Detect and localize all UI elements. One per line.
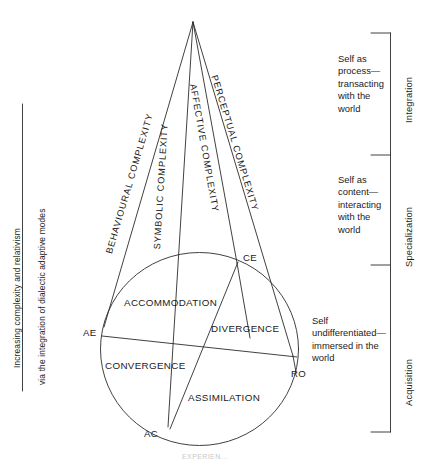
node-label-ro: RO bbox=[291, 368, 306, 379]
axis-ce-ac bbox=[170, 262, 238, 429]
ray-behavioural bbox=[104, 22, 193, 327]
quadrant-label-convergence: CONVERGENCE bbox=[105, 360, 186, 372]
stage-phase-specialization: Specialization bbox=[404, 207, 415, 267]
quadrant-label-assimilation: ASSIMILATION bbox=[188, 392, 260, 404]
node-label-ac: AC bbox=[144, 428, 158, 439]
quadrant-label-divergence: DIVERGENCE bbox=[211, 323, 279, 335]
figure-canvas: Increasing complexity and relativism via… bbox=[0, 0, 426, 460]
stage-description-integration: Self as process— transacting with the wo… bbox=[338, 53, 384, 115]
learning-cycle-circle bbox=[101, 253, 299, 446]
stage-phase-acquisition: Acquisition bbox=[404, 359, 415, 406]
node-label-ae: AE bbox=[83, 327, 96, 338]
stage-phase-integration: Integration bbox=[404, 77, 415, 123]
quadrant-label-accommodation: ACCOMMODATION bbox=[124, 297, 217, 309]
axis-ae-ro bbox=[102, 336, 297, 357]
node-label-ce: CE bbox=[243, 252, 257, 263]
stage-description-acquisition: Self undifferentiated— immersed in the w… bbox=[312, 315, 386, 365]
left-axis-label-line1: Increasing complexity and relativism bbox=[13, 228, 23, 368]
stage-description-specialization: Self as content— interacting with the wo… bbox=[338, 174, 381, 236]
left-axis-label-line2: via the integration of dialectic adaptiv… bbox=[38, 208, 48, 385]
figure-caption: EXPERIEN... bbox=[182, 453, 228, 460]
